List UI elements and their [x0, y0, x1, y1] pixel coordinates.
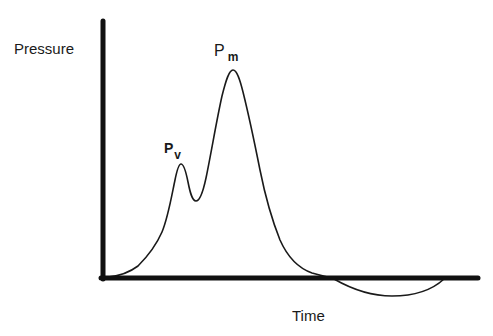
pressure-curve	[108, 70, 444, 296]
pressure-time-plot	[0, 0, 493, 336]
